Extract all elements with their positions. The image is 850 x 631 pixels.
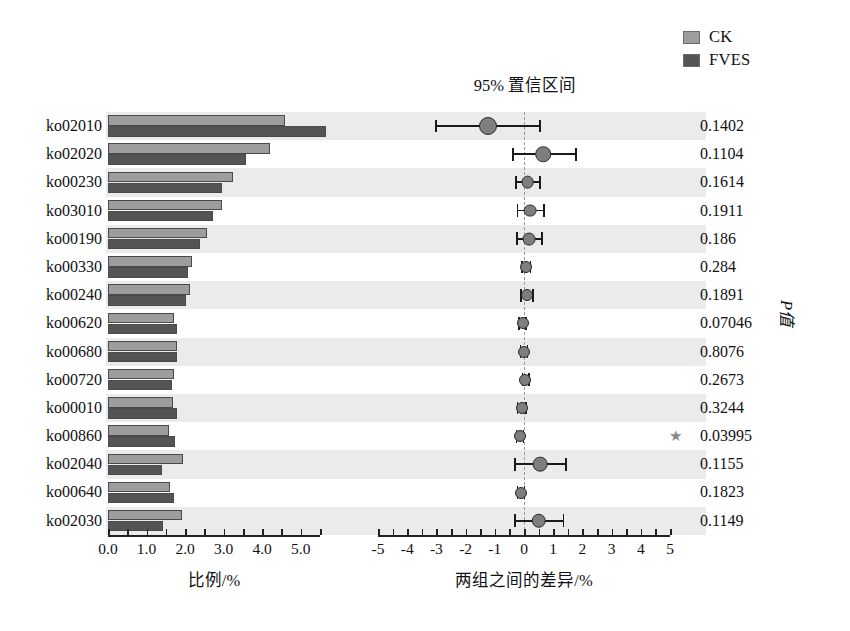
ci-row-ko00640 [348, 479, 684, 507]
axis-line [378, 535, 670, 537]
axis-tick [553, 529, 555, 535]
proportion-bar-panel [108, 112, 320, 535]
ci-row-ko00330 [348, 253, 684, 281]
ci-row-ko03010 [348, 197, 684, 225]
ci-whisker-cap-high [543, 204, 545, 217]
bar-row [108, 479, 320, 507]
axis-tick [451, 529, 453, 535]
axis-tick-label: 1 [549, 540, 557, 558]
bar-row [108, 140, 320, 168]
ci-mean-marker [514, 430, 526, 442]
category-label-ko02030: ko02030 [28, 507, 102, 535]
ci-row-ko02030 [348, 507, 684, 535]
ci-whisker-cap-low [514, 458, 516, 471]
ci-mean-marker [521, 176, 534, 189]
pvalue-axis-title: P值 [776, 300, 800, 327]
bar-ck-ko00720 [108, 369, 174, 380]
category-label-ko00010: ko00010 [28, 394, 102, 422]
ci-whisker-cap-low [435, 120, 437, 133]
axis-tick [224, 529, 226, 535]
axis-tick-label: 1.0 [137, 540, 156, 558]
bar-ck-ko00640 [108, 482, 170, 493]
bar-row [108, 507, 320, 535]
bar-row [108, 225, 320, 253]
bar-ck-ko00230 [108, 172, 233, 183]
significance-slot-empty [663, 140, 687, 168]
ci-row-ko02010 [348, 112, 684, 140]
ci-whisker-cap-high [563, 514, 565, 527]
legend-label: FVES [709, 52, 751, 69]
legend-swatch-fves [683, 54, 700, 67]
axis-tick-label: 0 [520, 540, 528, 558]
significance-slot-empty [663, 507, 687, 535]
axis-tick-label: 5.0 [291, 540, 310, 558]
ci-mean-marker [531, 514, 546, 529]
ci-mean-marker [524, 204, 537, 217]
bar-ck-ko00240 [108, 284, 190, 295]
axis-tick [436, 529, 438, 535]
ci-mean-marker [521, 289, 533, 301]
axis-tick [495, 529, 497, 535]
bar-fves-ko00640 [108, 493, 174, 504]
ci-whisker-cap-low [516, 232, 518, 245]
axis-tick-label: -1 [488, 540, 501, 558]
legend-label: CK [709, 29, 733, 46]
bar-row [108, 394, 320, 422]
bar-ck-ko03010 [108, 200, 222, 211]
ci-row-ko00720 [348, 366, 684, 394]
significance-slot-empty [663, 168, 687, 196]
axis-tick-label: 3.0 [214, 540, 233, 558]
ci-whisker-cap-low [512, 148, 514, 161]
category-label-ko00680: ko00680 [28, 338, 102, 366]
bar-ck-ko02040 [108, 454, 183, 465]
bar-fves-ko00010 [108, 408, 177, 419]
ci-mean-marker [533, 457, 548, 472]
ci-row-ko00620 [348, 309, 684, 337]
category-label-ko00230: ko00230 [28, 168, 102, 196]
axis-tick-label: -2 [459, 540, 472, 558]
category-label-ko02040: ko02040 [28, 450, 102, 478]
pvalue-ko00860: 0.03995 [700, 422, 810, 450]
ci-mean-marker [518, 346, 530, 358]
bar-fves-ko02010 [108, 126, 326, 137]
axis-tick [524, 529, 526, 535]
ci-whisker-cap-high [539, 176, 541, 189]
axis-tick [539, 529, 541, 535]
bar-fves-ko00720 [108, 380, 172, 391]
pvalue-ko02040: 0.1155 [700, 450, 810, 478]
axis-tick [301, 529, 303, 535]
axis-tick-label: 0.0 [98, 540, 117, 558]
legend: CKFVES [683, 26, 823, 72]
bar-fves-ko02040 [108, 465, 162, 476]
pvalue-ko00010: 0.3244 [700, 394, 810, 422]
ci-row-ko00860 [348, 422, 684, 450]
category-label-ko00620: ko00620 [28, 309, 102, 337]
legend-item-ck: CK [683, 26, 823, 49]
pvalue-ko02010: 0.1402 [700, 112, 810, 140]
axis-tick [466, 529, 468, 535]
category-label-column: ko02010ko02020ko00230ko03010ko00190ko003… [28, 112, 102, 535]
axis-tick-label: -3 [430, 540, 443, 558]
ci-whisker-cap-high [539, 120, 541, 133]
axis-tick [641, 529, 643, 535]
ci-row-ko02040 [348, 450, 684, 478]
significance-slot-empty [663, 253, 687, 281]
ci-mean-marker [523, 232, 536, 245]
significance-slot-empty [663, 309, 687, 337]
pvalue-ko00720: 0.2673 [700, 366, 810, 394]
bar-row [108, 309, 320, 337]
legend-swatch-ck [683, 31, 700, 44]
pvalue-ko00230: 0.1614 [700, 168, 810, 196]
significance-slot-empty [663, 478, 687, 506]
axis-tick [204, 529, 206, 535]
ci-whisker-cap-low [514, 514, 516, 527]
axis-tick [320, 529, 322, 535]
category-label-ko00190: ko00190 [28, 225, 102, 253]
axis-tick-label: 2.0 [175, 540, 194, 558]
category-label-ko00640: ko00640 [28, 478, 102, 506]
ci-mean-marker [515, 487, 527, 499]
axis-line [108, 535, 320, 537]
axis-tick [147, 529, 149, 535]
category-label-ko00720: ko00720 [28, 366, 102, 394]
bar-fves-ko03010 [108, 211, 213, 222]
